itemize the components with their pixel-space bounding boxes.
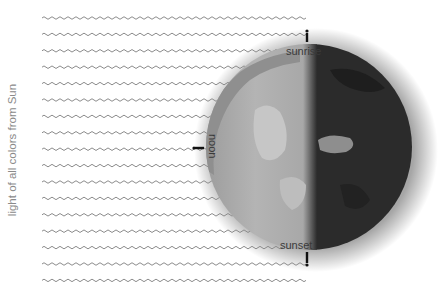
wave-row [42,279,306,282]
wave-row [42,214,234,217]
wave-row [42,132,210,135]
sunlight-axis-label: light of all colors from Sun [6,50,20,250]
wave-row [42,66,250,69]
wave-row [42,197,226,200]
sunset-label: sunset [280,239,312,251]
wave-row [42,164,210,167]
wave-row [42,263,306,266]
continent [318,135,353,153]
wave-row [42,33,306,36]
observer-sunrise-icon [305,29,308,42]
wave-row [42,115,218,118]
terminator [303,40,317,260]
wave-row [42,17,306,20]
wave-row [42,82,234,85]
observer-noon-icon [192,146,204,149]
wave-row [42,181,218,184]
diagram-canvas: sunrise sunset noon [0,0,439,295]
earth-sunlight-diagram: sunrise sunset noon light of all colors … [0,0,439,295]
observer-sunset-icon [305,252,308,267]
sunrise-label: sunrise [286,45,321,57]
noon-label: noon [207,134,219,158]
wave-row [42,99,226,102]
wave-row [42,148,210,151]
